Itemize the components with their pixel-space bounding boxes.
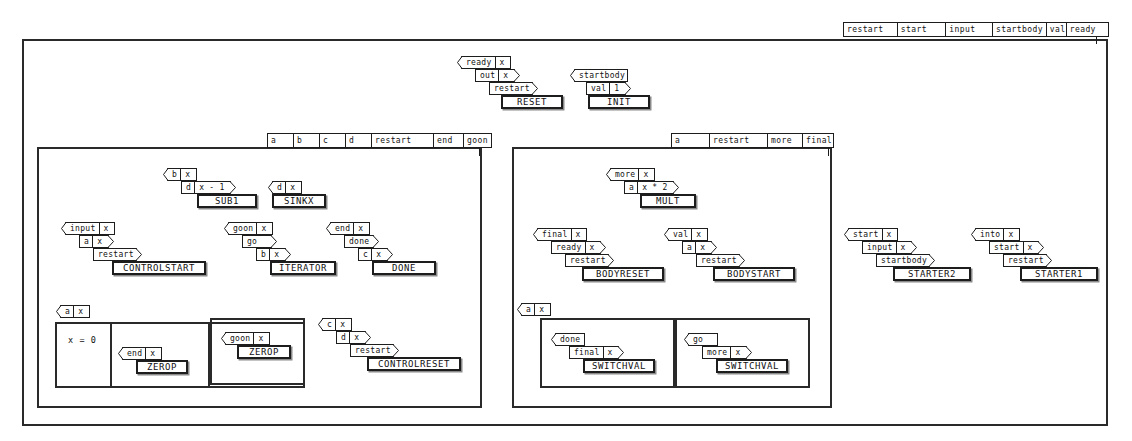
rule-controlstart-row-2[interactable]: restart: [93, 248, 137, 261]
rule-switchval-final-row-1[interactable]: finalx: [569, 346, 619, 359]
rule-starter2-row-1[interactable]: inputx: [862, 241, 912, 254]
rule-mult-row-0[interactable]: morex: [610, 168, 655, 181]
signal-label: restart: [351, 346, 394, 355]
rule-sub1-row-0[interactable]: bx: [167, 168, 197, 181]
rule-done-row-0[interactable]: endx: [330, 222, 370, 235]
rule-done-row-2[interactable]: cx: [358, 248, 388, 261]
rule-bodyreset-row-0[interactable]: finalx: [537, 228, 587, 241]
rule-starter1-row-2[interactable]: restart: [1003, 254, 1047, 267]
rule-init-row-0[interactable]: startbody: [574, 69, 628, 82]
rule-bodystart-row-2[interactable]: restart: [696, 254, 740, 267]
rule-iterator-row-2[interactable]: bx: [256, 248, 286, 261]
signal-label: final: [570, 348, 603, 357]
rule-name-box-switchval-more[interactable]: SWITCHVAL: [716, 359, 788, 373]
rule-name-box-done[interactable]: DONE: [372, 261, 436, 275]
rule-name-box-init[interactable]: INIT: [588, 95, 650, 109]
rule-name-box-controlreset[interactable]: CONTROLRESET: [367, 357, 461, 371]
rule-starter1-row-0[interactable]: intox: [975, 228, 1020, 241]
rule-name-label: ITERATOR: [279, 263, 327, 273]
rule-starter2-row-2[interactable]: startbody: [876, 254, 930, 267]
rule-reset-row-2[interactable]: restart: [489, 82, 533, 95]
rule-controlreset-row-1[interactable]: dx: [336, 331, 366, 344]
rule-right-guard-header-row-0[interactable]: ax: [521, 303, 551, 316]
rule-zerop-end-row-0[interactable]: endx: [122, 347, 162, 360]
rule-name-box-controlstart[interactable]: CONTROLSTART: [112, 261, 206, 275]
signal-value: x: [604, 348, 616, 357]
right-signal-more[interactable]: more: [768, 134, 803, 147]
signal-label: c: [323, 320, 335, 329]
global-signal-bar[interactable]: restartstartinputstartbodyvalready: [843, 22, 1109, 37]
signal-value: x: [692, 230, 704, 239]
rule-name-box-bodyreset[interactable]: BODYRESET: [582, 267, 664, 281]
signal-label: restart: [94, 250, 137, 259]
rule-reset-row-1[interactable]: outx: [475, 69, 515, 82]
rule-name-box-zerop-end[interactable]: ZEROP: [136, 360, 188, 374]
rule-name-box-sinkx[interactable]: SINKX: [272, 194, 326, 208]
rule-sub1-row-1[interactable]: dx - 1: [181, 181, 231, 194]
signal-label: go: [243, 237, 260, 246]
signal-value: x: [286, 183, 298, 192]
signal-label: val: [587, 84, 609, 93]
signal-value: x: [93, 237, 105, 246]
rule-mult-row-1[interactable]: ax * 2: [624, 181, 674, 194]
rule-switchval-final-row-0[interactable]: done: [555, 333, 585, 346]
rule-bodystart-row-1[interactable]: ax: [682, 241, 712, 254]
left-signal-d[interactable]: d: [346, 134, 372, 147]
rule-name-box-zerop-goon[interactable]: ZEROP: [237, 345, 291, 359]
rule-bodyreset-row-2[interactable]: restart: [565, 254, 609, 267]
rule-init-row-1[interactable]: val1: [586, 82, 626, 95]
rule-switchval-more-row-0[interactable]: go: [688, 333, 718, 346]
left-signal-b[interactable]: b: [294, 134, 320, 147]
global-signal-startbody[interactable]: startbody: [993, 23, 1047, 36]
rule-name-box-iterator[interactable]: ITERATOR: [270, 261, 336, 275]
diagram-canvas[interactable]: restartstartinputstartbodyvalready abcdr…: [0, 0, 1132, 441]
global-signal-ready[interactable]: ready: [1067, 23, 1108, 36]
rule-reset-row-0[interactable]: readyx: [461, 56, 511, 69]
rule-name-box-starter1[interactable]: STARTER1: [1020, 267, 1098, 281]
signal-label: startbody: [575, 71, 628, 80]
rule-left-guard-header-row-0[interactable]: ax: [60, 305, 90, 318]
signal-value: x: [1004, 230, 1016, 239]
rule-done-row-1[interactable]: done: [344, 235, 374, 248]
signal-label: ready: [552, 243, 585, 252]
rule-name-box-switchval-final[interactable]: SWITCHVAL: [583, 359, 655, 373]
signal-value: x: [499, 71, 511, 80]
rule-controlstart-row-0[interactable]: inputx: [65, 222, 115, 235]
left-signal-a[interactable]: a: [268, 134, 294, 147]
signal-label: ready: [462, 58, 495, 67]
left-signal-goon[interactable]: goon: [464, 134, 491, 147]
rule-name-box-mult[interactable]: MULT: [640, 194, 696, 208]
rule-iterator-row-1[interactable]: go: [242, 235, 272, 248]
left-group-signal-bar[interactable]: abcdrestartendgoon: [267, 133, 492, 148]
signal-value: x: [696, 243, 708, 252]
rule-name-box-starter2[interactable]: STARTER2: [893, 267, 971, 281]
rule-bodyreset-row-1[interactable]: readyx: [551, 241, 601, 254]
rule-name-box-bodystart[interactable]: BODYSTART: [713, 267, 795, 281]
global-signal-val[interactable]: val: [1047, 23, 1067, 36]
signal-label: a: [522, 305, 534, 314]
right-group-signal-bar[interactable]: arestartmorefinal: [671, 133, 834, 148]
rule-zerop-goon-row-0[interactable]: goonx: [225, 332, 270, 345]
rule-iterator-row-0[interactable]: goonx: [228, 222, 273, 235]
right-signal-final[interactable]: final: [803, 134, 833, 147]
rule-starter2-row-0[interactable]: startx: [848, 228, 898, 241]
global-signal-start[interactable]: start: [898, 23, 946, 36]
global-signal-restart[interactable]: restart: [844, 23, 898, 36]
rule-switchval-more-row-1[interactable]: morex: [702, 346, 747, 359]
rule-bodystart-row-0[interactable]: valx: [668, 228, 708, 241]
rule-name-box-sub1[interactable]: SUB1: [197, 194, 257, 208]
left-signal-c[interactable]: c: [320, 134, 346, 147]
rule-starter1-row-1[interactable]: startx: [989, 241, 1039, 254]
rule-controlreset-row-2[interactable]: restart: [350, 344, 394, 357]
rule-controlstart-row-1[interactable]: ax: [79, 235, 109, 248]
left-signal-end[interactable]: end: [434, 134, 464, 147]
signal-label: val: [669, 230, 691, 239]
global-signal-input[interactable]: input: [946, 23, 993, 36]
left-signal-restart[interactable]: restart: [372, 134, 434, 147]
rule-sinkx-row-0[interactable]: dx: [272, 181, 302, 194]
rule-name-box-reset[interactable]: RESET: [501, 95, 563, 109]
right-signal-a[interactable]: a: [672, 134, 710, 147]
right-signal-restart[interactable]: restart: [710, 134, 768, 147]
rule-controlreset-row-0[interactable]: cx: [322, 318, 352, 331]
signal-label: start: [849, 230, 882, 239]
